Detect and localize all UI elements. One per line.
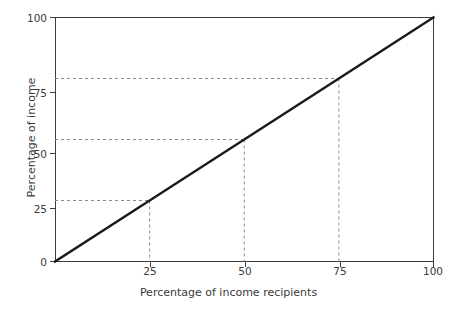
plot-area — [55, 17, 434, 262]
x-axis-title: Percentage of income recipients — [0, 286, 457, 299]
ytick-mark-100 — [50, 17, 55, 18]
xtick-label-75: 75 — [333, 266, 346, 277]
ytick-mark-75 — [50, 92, 55, 93]
ytick-mark-25 — [50, 208, 55, 209]
ytick-mark-50 — [50, 153, 55, 154]
y-axis-title: Percentage of income — [25, 48, 38, 228]
xtick-label-50: 50 — [238, 266, 251, 277]
xtick-label-25: 25 — [143, 266, 156, 277]
ytick-mark-0 — [50, 261, 55, 262]
ytick-label-0: 0 — [3, 257, 47, 268]
ytick-label-100: 100 — [3, 13, 47, 24]
lorenz-equality-chart: 0 25 50 75 100 25 50 75 100 Percentage o… — [0, 0, 457, 309]
xtick-label-100: 100 — [423, 266, 443, 277]
